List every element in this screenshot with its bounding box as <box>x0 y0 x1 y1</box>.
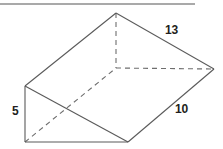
edge-apex-to-left-top <box>25 13 116 86</box>
edge-apex-to-right <box>116 13 214 69</box>
hidden-edge-left-bottom-to-back-base <box>25 68 116 142</box>
edge-front-bottom-to-right <box>128 69 214 142</box>
dimension-label-5: 5 <box>12 105 18 117</box>
hidden-edge-back-base-to-right <box>116 68 214 69</box>
prism-drawing-canvas <box>0 0 223 149</box>
triangular-prism-figure: 13 10 5 <box>0 0 223 149</box>
solid-edges-group <box>25 13 214 142</box>
dimension-label-13: 13 <box>165 24 178 36</box>
edge-left-top-to-front-bottom <box>25 86 128 142</box>
dimension-label-10: 10 <box>175 103 188 115</box>
hidden-edges-group <box>25 13 214 142</box>
